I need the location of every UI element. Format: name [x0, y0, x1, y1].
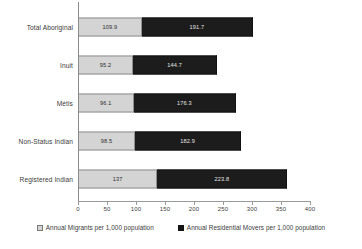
stacked-bar[interactable]: 96.1176.3: [78, 94, 236, 113]
category-label-3: Métis: [57, 100, 73, 107]
x-tick-label: 100: [131, 206, 141, 212]
x-tick-label: 300: [247, 206, 257, 212]
x-tick-label: 150: [160, 206, 170, 212]
bar-segment-movers[interactable]: 176.3: [134, 94, 236, 113]
category-axis-line: [78, 2, 79, 201]
bar-value-migrants: 95.2: [100, 62, 112, 68]
bar-value-migrants: 98.5: [101, 138, 113, 144]
chart-row: Métis96.1176.3: [78, 84, 310, 122]
chart-legend: Annual Migrants per 1,000 population Ann…: [0, 224, 362, 231]
category-label-1: Total Aboriginal: [27, 24, 73, 31]
light-square-icon: [37, 225, 43, 231]
bar-segment-migrants[interactable]: 96.1: [78, 94, 134, 113]
bar-segment-migrants[interactable]: 109.9: [78, 18, 142, 37]
x-tick-label: 350: [276, 206, 286, 212]
stacked-bar-chart: Total Aboriginal109.9191.7Inuit95.2144.7…: [0, 0, 362, 249]
chart-row: Inuit95.2144.7: [78, 46, 310, 84]
plot-area: Total Aboriginal109.9191.7Inuit95.2144.7…: [78, 8, 310, 200]
bar-segment-movers[interactable]: 191.7: [142, 18, 253, 37]
legend-item-migrants[interactable]: Annual Migrants per 1,000 population: [37, 224, 154, 231]
legend-label-migrants: Annual Migrants per 1,000 population: [46, 224, 154, 231]
bar-segment-movers[interactable]: 144.7: [133, 56, 217, 75]
bar-segment-migrants[interactable]: 98.5: [78, 132, 135, 151]
bar-value-movers: 223.8: [214, 176, 229, 182]
bar-segment-movers[interactable]: 182.9: [135, 132, 241, 151]
bar-value-movers: 182.9: [180, 138, 195, 144]
chart-row: Total Aboriginal109.9191.7: [78, 8, 310, 46]
chart-row: Registered Indian137223.8: [78, 160, 310, 198]
bar-value-movers: 176.3: [177, 100, 192, 106]
x-tick-label: 200: [189, 206, 199, 212]
legend-label-movers: Annual Residential Movers per 1,000 popu…: [187, 224, 325, 231]
bar-value-migrants: 96.1: [100, 100, 112, 106]
bar-segment-migrants[interactable]: 95.2: [78, 56, 133, 75]
bar-segment-movers[interactable]: 223.8: [157, 170, 287, 189]
legend-item-movers[interactable]: Annual Residential Movers per 1,000 popu…: [178, 224, 325, 231]
stacked-bar[interactable]: 109.9191.7: [78, 18, 253, 37]
category-label-4: Non-Status Indian: [19, 138, 73, 145]
bar-value-migrants: 137: [113, 176, 123, 182]
bar-value-migrants: 109.9: [102, 24, 117, 30]
bar-value-movers: 144.7: [167, 62, 182, 68]
stacked-bar[interactable]: 98.5182.9: [78, 132, 241, 151]
stacked-bar[interactable]: 137223.8: [78, 170, 287, 189]
category-label-2: Inuit: [60, 62, 73, 69]
x-tick-label: 400: [305, 206, 315, 212]
dark-square-icon: [178, 225, 184, 231]
bar-segment-migrants[interactable]: 137: [78, 170, 157, 189]
x-tick-label: 0: [76, 206, 79, 212]
stacked-bar[interactable]: 95.2144.7: [78, 56, 217, 75]
category-label-5: Registered Indian: [20, 176, 73, 183]
bar-value-movers: 191.7: [189, 24, 204, 30]
x-tick-label: 250: [218, 206, 228, 212]
x-tick-label: 50: [104, 206, 111, 212]
value-axis-line: [78, 201, 311, 202]
chart-row: Non-Status Indian98.5182.9: [78, 122, 310, 160]
